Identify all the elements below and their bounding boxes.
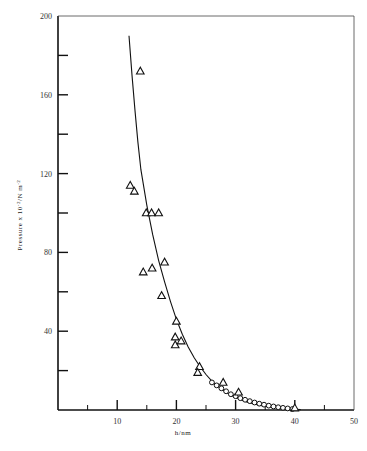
circle-marker <box>252 400 257 405</box>
triangle-marker <box>161 258 169 265</box>
circle-marker <box>214 383 219 388</box>
circle-marker <box>238 396 243 401</box>
triangle-marker <box>139 268 147 275</box>
triangle-marker <box>158 292 166 299</box>
fit-curve <box>129 36 301 410</box>
circle-marker <box>271 404 276 409</box>
y-tick-label: 120 <box>40 170 52 179</box>
triangle-marker <box>148 264 156 271</box>
x-tick-label: 10 <box>113 417 121 426</box>
y-axis-title: Pressure x 10-2/N m-2 <box>16 180 25 251</box>
triangle-marker <box>235 388 243 395</box>
x-axis-ticks: 1020304050 <box>88 400 358 426</box>
triangle-markers <box>126 67 298 411</box>
triangle-marker <box>171 333 179 340</box>
circle-marker <box>247 399 252 404</box>
circle-marker <box>224 389 229 394</box>
triangle-marker <box>126 181 134 188</box>
pressure-vs-separation-chart: 4080120160200 1020304050 h/nm Pressure x… <box>0 0 367 451</box>
triangle-marker <box>196 363 204 370</box>
circle-marker <box>228 392 233 397</box>
circle-marker <box>243 397 248 402</box>
x-tick-label: 50 <box>350 417 358 426</box>
circle-marker <box>257 401 262 406</box>
triangle-marker <box>173 317 181 324</box>
circle-marker <box>219 386 224 391</box>
circle-marker <box>281 405 286 410</box>
triangle-marker <box>155 209 163 216</box>
x-tick-label: 30 <box>232 417 240 426</box>
y-tick-label: 200 <box>40 12 52 21</box>
x-axis-title: h/nm <box>175 429 191 437</box>
y-tick-label: 160 <box>40 91 52 100</box>
y-axis-ticks: 4080120160200 <box>40 12 68 371</box>
triangle-marker <box>148 209 156 216</box>
x-tick-label: 20 <box>172 417 180 426</box>
x-tick-label: 40 <box>291 417 299 426</box>
circle-marker <box>276 405 281 410</box>
circle-marker <box>285 406 290 411</box>
plot-frame <box>58 16 354 410</box>
circle-marker <box>210 380 215 385</box>
y-tick-label: 40 <box>44 327 52 336</box>
y-tick-label: 80 <box>44 248 52 257</box>
triangle-marker <box>219 378 227 385</box>
circle-marker <box>266 403 271 408</box>
triangle-marker <box>136 67 144 74</box>
fit-curve-path <box>129 36 301 410</box>
circle-marker <box>262 402 267 407</box>
